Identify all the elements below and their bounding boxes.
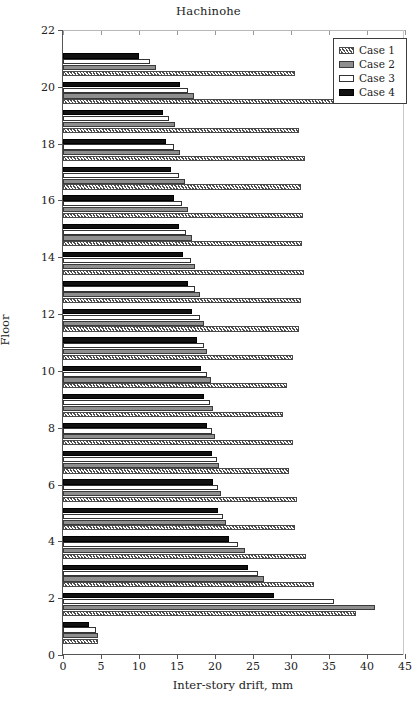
bar-case-1-floor-15 <box>63 241 302 246</box>
legend-item-case-1[interactable]: Case 1 <box>339 43 401 57</box>
plot-inner <box>63 30 404 654</box>
y-axis-tick-label: 14 <box>41 251 55 264</box>
bar-case-4-floor-19 <box>63 110 163 115</box>
bar-case-3-floor-7 <box>63 457 217 462</box>
legend-item-label: Case 1 <box>359 44 395 56</box>
bar-case-3-floor-2 <box>63 599 334 604</box>
bar-case-4-floor-1 <box>63 622 89 627</box>
bar-case-2-floor-16 <box>63 207 188 212</box>
y-axis-tick-label: 20 <box>41 80 55 93</box>
x-axis-tick <box>177 654 178 659</box>
bar-case-4-floor-21 <box>63 53 139 58</box>
legend-item-case-3[interactable]: Case 3 <box>339 71 401 85</box>
y-axis-tick <box>58 87 63 88</box>
bar-case-4-floor-18 <box>63 139 166 144</box>
bar-case-4-floor-12 <box>63 309 192 314</box>
bar-case-4-floor-6 <box>63 479 213 484</box>
legend-item-case-4[interactable]: Case 4 <box>339 85 401 99</box>
bar-case-3-floor-20 <box>63 88 188 93</box>
bar-case-1-floor-11 <box>63 355 293 360</box>
x-axis-tick-label: 0 <box>60 660 67 673</box>
bar-case-3-floor-8 <box>63 428 212 433</box>
bar-case-3-floor-18 <box>63 144 174 149</box>
bar-case-2-floor-10 <box>63 377 211 382</box>
y-axis-tick <box>58 257 63 258</box>
bar-case-1-floor-2 <box>63 611 356 616</box>
bar-case-2-floor-6 <box>63 491 221 496</box>
x-axis-label: Inter-story drift, mm <box>62 678 404 692</box>
y-axis-tick <box>58 541 63 542</box>
bar-case-4-floor-16 <box>63 195 174 200</box>
bar-case-2-floor-5 <box>63 520 226 525</box>
x-axis-tick-label: 25 <box>246 660 260 673</box>
legend-item-label: Case 3 <box>359 72 395 84</box>
bar-case-1-floor-21 <box>63 71 295 76</box>
x-axis-tick <box>139 654 140 659</box>
bar-case-3-floor-16 <box>63 201 182 206</box>
y-axis-tick-label: 8 <box>48 421 55 434</box>
x-axis-tick-label: 5 <box>98 660 105 673</box>
bar-case-4-floor-4 <box>63 536 229 541</box>
bar-case-4-floor-8 <box>63 423 207 428</box>
legend-swatch-icon <box>339 47 354 54</box>
bar-case-1-floor-17 <box>63 184 301 189</box>
bar-case-4-floor-5 <box>63 508 218 513</box>
bar-case-2-floor-3 <box>63 576 264 581</box>
bar-case-1-floor-14 <box>63 270 304 275</box>
plot-right-spine <box>403 30 404 655</box>
bar-case-1-floor-4 <box>63 554 306 559</box>
bar-case-2-floor-17 <box>63 179 185 184</box>
bar-case-3-floor-17 <box>63 173 179 178</box>
x-axis-tick <box>291 654 292 659</box>
y-axis-tick-label: 4 <box>48 535 55 548</box>
bar-case-4-floor-15 <box>63 224 179 229</box>
legend-swatch-icon <box>339 89 354 96</box>
x-axis-tick <box>253 654 254 659</box>
bar-case-2-floor-11 <box>63 349 207 354</box>
bar-case-1-floor-6 <box>63 497 297 502</box>
y-axis-tick <box>58 200 63 201</box>
x-axis-tick <box>63 654 64 659</box>
bar-case-3-floor-12 <box>63 315 200 320</box>
y-axis-tick <box>58 144 63 145</box>
bar-case-4-floor-7 <box>63 451 212 456</box>
bar-case-1-floor-12 <box>63 326 299 331</box>
bar-case-3-floor-15 <box>63 230 186 235</box>
bar-case-4-floor-10 <box>63 366 201 371</box>
x-axis-tick <box>215 654 216 659</box>
bar-case-2-floor-13 <box>63 292 200 297</box>
y-axis-tick-label: 10 <box>41 364 55 377</box>
bar-case-1-floor-10 <box>63 383 287 388</box>
bar-case-3-floor-5 <box>63 514 223 519</box>
y-axis-label: Floor <box>0 314 12 345</box>
y-axis-tick <box>58 428 63 429</box>
bar-case-3-floor-13 <box>63 286 195 291</box>
bar-case-3-floor-11 <box>63 343 204 348</box>
bar-case-1-floor-7 <box>63 468 289 473</box>
bar-case-4-floor-2 <box>63 593 274 598</box>
plot-area: 0246810121416182022051015202530354045 <box>62 30 404 655</box>
chart-legend: Case 1Case 2Case 3Case 4 <box>333 38 407 104</box>
legend-swatch-icon <box>339 75 354 82</box>
bar-case-2-floor-1 <box>63 633 98 638</box>
bar-case-2-floor-21 <box>63 65 156 70</box>
bar-case-1-floor-19 <box>63 128 299 133</box>
y-axis-tick-label: 0 <box>48 649 55 662</box>
x-axis-tick <box>405 654 406 659</box>
legend-item-case-2[interactable]: Case 2 <box>339 57 401 71</box>
y-axis-tick <box>58 485 63 486</box>
chart-container: Hachinohe 024681012141618202205101520253… <box>0 0 417 709</box>
bar-case-1-floor-8 <box>63 440 293 445</box>
bar-case-4-floor-14 <box>63 252 183 257</box>
bar-case-4-floor-3 <box>63 565 248 570</box>
y-axis-tick <box>58 371 63 372</box>
x-axis-tick <box>329 654 330 659</box>
bar-case-3-floor-9 <box>63 400 210 405</box>
bar-case-2-floor-8 <box>63 434 215 439</box>
bar-case-1-floor-1 <box>63 639 98 644</box>
bar-case-1-floor-3 <box>63 582 314 587</box>
bar-case-2-floor-19 <box>63 122 175 127</box>
bar-case-3-floor-19 <box>63 116 169 121</box>
bar-case-3-floor-4 <box>63 542 238 547</box>
x-axis-tick <box>101 654 102 659</box>
